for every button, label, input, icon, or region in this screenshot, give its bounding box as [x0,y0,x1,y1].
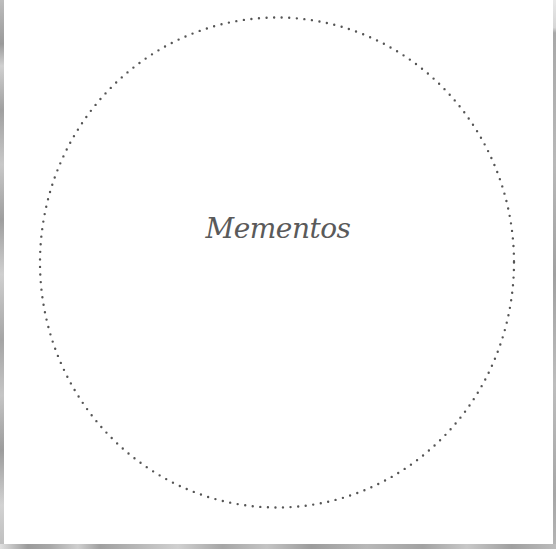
dotted-circle-frame [0,0,556,549]
label-title: Mementos [0,212,556,245]
